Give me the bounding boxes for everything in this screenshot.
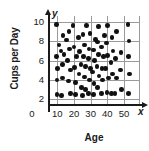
- data-point: [67, 29, 72, 34]
- data-point: [127, 72, 132, 77]
- data-point: [126, 91, 131, 96]
- data-point: [60, 62, 65, 67]
- y-tick-label-4: 4: [22, 75, 44, 84]
- data-point: [96, 24, 101, 29]
- y-axis-tick-labels: 108642: [22, 0, 44, 151]
- data-point: [73, 80, 78, 85]
- x-axis-title: Age: [46, 132, 142, 143]
- y-tick-label-10: 10: [22, 17, 44, 26]
- y-axis-line: [48, 14, 50, 112]
- data-point: [102, 33, 107, 38]
- gridline-horizontal-2: [49, 99, 139, 100]
- y-tick-label-2: 2: [22, 94, 44, 103]
- data-point: [80, 93, 85, 98]
- data-point: [72, 65, 77, 70]
- y-tick-label-6: 6: [22, 56, 44, 65]
- data-point: [82, 75, 87, 80]
- data-point: [88, 31, 93, 36]
- x-tick-label-50: 50: [114, 108, 134, 119]
- data-point: [84, 23, 89, 28]
- data-point: [87, 78, 92, 83]
- data-point: [62, 52, 67, 57]
- data-point: [126, 54, 131, 59]
- data-point: [119, 87, 124, 92]
- data-point: [110, 35, 115, 40]
- data-point: [82, 43, 87, 48]
- y-axis-title: Cups per Day: [9, 22, 20, 96]
- data-point: [83, 64, 88, 69]
- data-point: [90, 70, 95, 75]
- y-tick-label-8: 8: [22, 36, 44, 45]
- data-point: [60, 76, 65, 81]
- data-point: [100, 78, 105, 83]
- plot-area: [49, 16, 139, 105]
- data-point: [105, 23, 110, 28]
- y-axis-variable-label: y: [52, 8, 58, 19]
- data-point: [77, 72, 82, 77]
- data-point: [113, 91, 118, 96]
- y-axis-arrow-icon: [45, 9, 51, 15]
- data-point: [126, 22, 131, 27]
- data-point: [127, 39, 132, 44]
- data-point: [81, 32, 86, 37]
- data-point: [54, 22, 59, 27]
- data-point: [73, 92, 78, 97]
- data-point: [54, 54, 59, 59]
- data-point: [57, 43, 62, 48]
- data-point: [55, 78, 60, 83]
- data-point: [104, 41, 109, 46]
- data-point: [65, 58, 70, 63]
- data-point: [99, 45, 104, 50]
- data-point: [103, 66, 108, 71]
- data-point: [59, 93, 64, 98]
- data-point: [105, 53, 110, 58]
- x-axis-line: [48, 104, 144, 106]
- data-point: [91, 48, 96, 53]
- data-point: [86, 56, 91, 61]
- data-point: [113, 56, 118, 61]
- data-point: [106, 76, 111, 81]
- data-point: [72, 45, 77, 50]
- data-point: [95, 85, 100, 90]
- data-point: [118, 68, 123, 73]
- data-point: [109, 60, 114, 65]
- data-point: [111, 49, 116, 54]
- data-point: [92, 58, 97, 63]
- data-point: [74, 54, 79, 59]
- data-point: [66, 79, 71, 84]
- data-point: [76, 35, 81, 40]
- data-point: [55, 66, 60, 71]
- data-point: [99, 91, 104, 96]
- plot-right-border: [139, 16, 140, 105]
- x-axis-tick-labels: 1020304050: [0, 108, 149, 122]
- scatter-plot-figure: Cups per Day 108642 0 1020304050 Age y x: [0, 0, 149, 151]
- data-point: [91, 92, 96, 97]
- data-point: [68, 91, 73, 96]
- data-point: [114, 29, 119, 34]
- data-point: [119, 50, 124, 55]
- data-point: [95, 64, 100, 69]
- data-point: [95, 40, 100, 45]
- data-point: [61, 33, 66, 38]
- x-axis-variable-label: x: [138, 106, 144, 117]
- data-point: [114, 76, 119, 81]
